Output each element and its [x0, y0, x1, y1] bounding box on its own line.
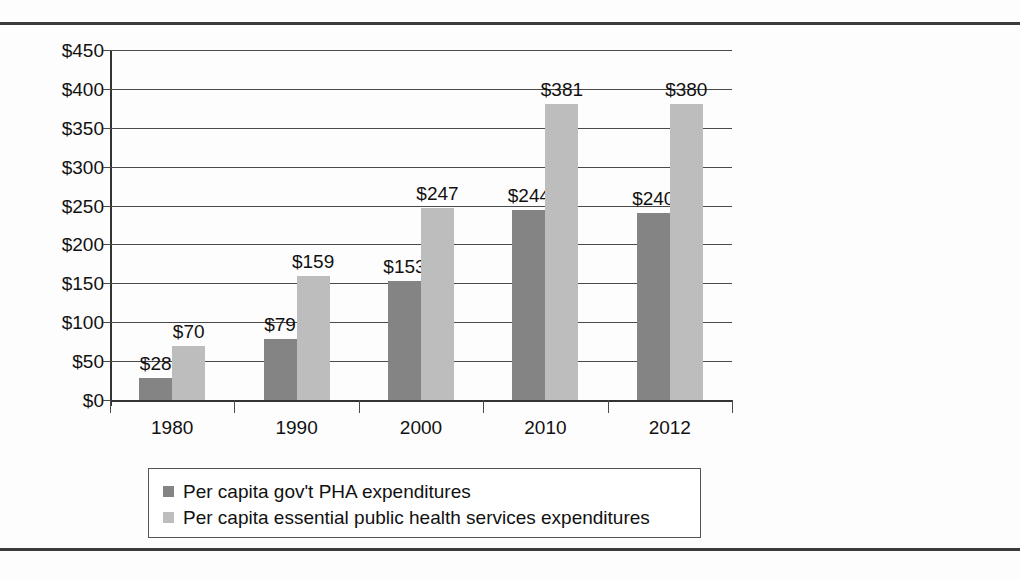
bar-series-0-2012: [637, 213, 670, 400]
y-tick-label: $200: [32, 235, 104, 254]
bar-chart-figure: $0$50$100$150$200$250$300$350$400$450 $2…: [0, 26, 1020, 546]
bar-series-1-2010: [545, 104, 578, 400]
bar-value-label-series-1-1990: $159: [273, 252, 353, 271]
y-tick-label: $300: [32, 158, 104, 177]
gridline: [110, 50, 732, 51]
x-tick-mark: [110, 400, 111, 413]
bar-series-0-2010: [512, 210, 545, 400]
legend-swatch-icon-series-1: [163, 512, 174, 523]
bar-series-1-2012: [670, 104, 703, 400]
chart-legend: Per capita gov't PHA expenditures Per ca…: [148, 468, 701, 538]
x-tick-mark: [732, 400, 733, 413]
y-tick-label: $400: [32, 80, 104, 99]
bar-value-label-series-1-2000: $247: [398, 184, 478, 203]
bar-value-label-series-1-2010: $381: [522, 80, 602, 99]
x-tick-label-2010: 2010: [495, 417, 595, 439]
y-tick-label: $100: [32, 313, 104, 332]
bar-value-label-series-1-2012: $380: [646, 80, 726, 99]
y-tick-mark: [103, 361, 111, 362]
y-tick-label: $450: [32, 41, 104, 60]
bottom-divider-rule: [0, 548, 1020, 551]
legend-item-series-0: Per capita gov't PHA expenditures: [163, 478, 700, 504]
y-tick-mark: [103, 244, 111, 245]
gridline: [110, 167, 732, 168]
gridline: [110, 89, 732, 90]
gridline: [110, 128, 732, 129]
y-tick-label: $350: [32, 119, 104, 138]
bar-series-1-1980: [172, 346, 205, 400]
y-tick-mark: [103, 283, 111, 284]
plot-area: $28$70$79$159$153$247$244$381$240$380: [110, 26, 732, 406]
bar-series-0-1990: [264, 339, 297, 400]
legend-item-series-1: Per capita essential public health servi…: [163, 504, 700, 530]
y-axis-line: [110, 50, 112, 406]
bar-value-label-series-1-1980: $70: [149, 322, 229, 341]
x-tick-label-1990: 1990: [247, 417, 347, 439]
y-axis-tick-labels: $0$50$100$150$200$250$300$350$400$450: [30, 26, 104, 406]
y-tick-mark: [103, 167, 111, 168]
x-tick-label-1980: 1980: [122, 417, 222, 439]
y-tick-mark: [103, 50, 111, 51]
legend-swatch-icon-series-0: [163, 486, 174, 497]
y-tick-mark: [103, 322, 111, 323]
x-tick-label-2012: 2012: [620, 417, 720, 439]
y-tick-label: $250: [32, 197, 104, 216]
bar-series-1-2000: [421, 208, 454, 400]
x-tick-mark: [359, 400, 360, 413]
legend-label-series-1: Per capita essential public health servi…: [183, 508, 650, 527]
x-tick-mark: [608, 400, 609, 413]
x-axis: 19801990200020102012: [110, 400, 732, 450]
x-tick-label-2000: 2000: [371, 417, 471, 439]
y-tick-label: $150: [32, 274, 104, 293]
y-tick-label: $0: [32, 391, 104, 410]
bar-series-0-2000: [388, 281, 421, 400]
bar-series-1-1990: [297, 276, 330, 400]
bar-series-0-1980: [139, 378, 172, 400]
y-tick-mark: [103, 128, 111, 129]
y-tick-mark: [103, 89, 111, 90]
y-tick-label: $50: [32, 352, 104, 371]
x-tick-mark: [483, 400, 484, 413]
x-tick-mark: [234, 400, 235, 413]
chart-page: $0$50$100$150$200$250$300$350$400$450 $2…: [0, 0, 1020, 579]
legend-label-series-0: Per capita gov't PHA expenditures: [183, 482, 471, 501]
y-tick-mark: [103, 206, 111, 207]
top-divider-rule: [0, 22, 1020, 25]
